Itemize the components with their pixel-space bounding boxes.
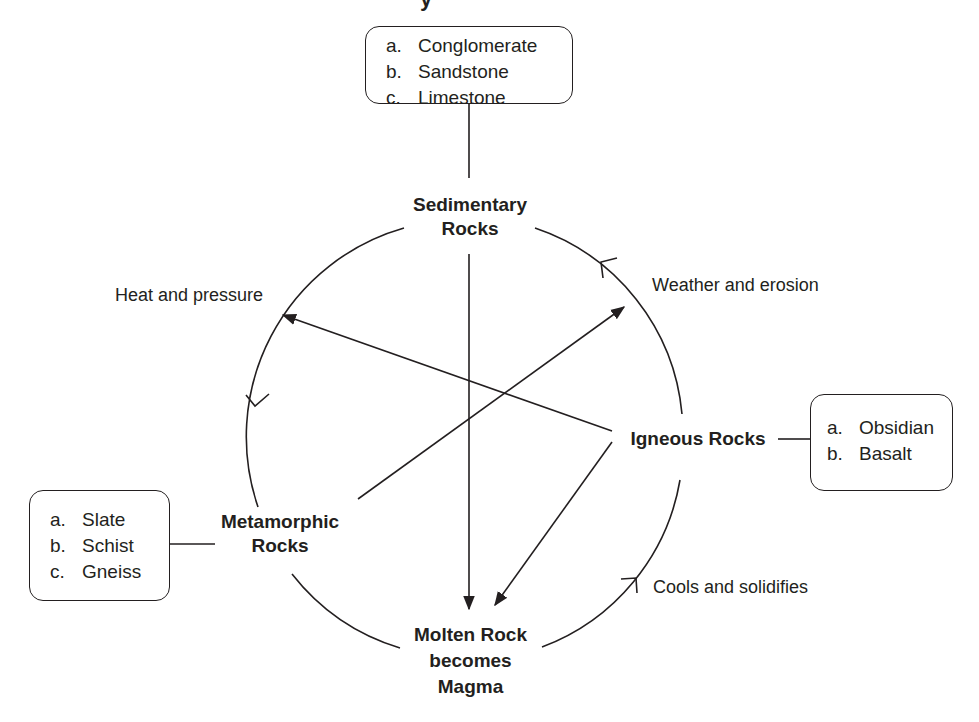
node-sedimentary-rocks: Sedimentary Rocks: [395, 193, 545, 241]
examples-box-metamorphic: a.Slate b.Schist c.Gneiss: [29, 490, 170, 601]
node-igneous-rocks: Igneous Rocks: [618, 427, 778, 451]
example-item: b.Sandstone: [386, 59, 572, 85]
example-item: b.Schist: [50, 533, 169, 559]
arc-igneous-to-sedimentary: [535, 228, 682, 414]
label-heat-and-pressure: Heat and pressure: [115, 284, 263, 306]
example-item: c.Limestone: [386, 85, 572, 111]
arrow-igneous-to-magma: [495, 442, 612, 605]
example-item: b.Basalt: [827, 441, 952, 467]
example-item: c.Gneiss: [50, 559, 169, 585]
example-item: a.Conglomerate: [386, 33, 572, 59]
arrow-igneous-to-metamorphic: [283, 315, 612, 431]
label-weather-and-erosion: Weather and erosion: [652, 274, 819, 296]
arc-sedimentary-to-metamorphic: [246, 228, 404, 507]
example-item: a.Obsidian: [827, 415, 952, 441]
node-molten-rock-magma: Molten Rock becomes Magma: [393, 622, 548, 700]
examples-box-sedimentary: a.Conglomerate b.Sandstone c.Limestone: [365, 26, 573, 104]
label-cools-and-solidifies: Cools and solidifies: [653, 576, 808, 598]
example-item: a.Slate: [50, 507, 169, 533]
arrow-metamorphic-to-sedimentary: [358, 307, 624, 499]
arc-magma-to-igneous: [542, 480, 680, 647]
examples-box-igneous: a.Obsidian b.Basalt: [810, 394, 953, 491]
node-metamorphic-rocks: Metamorphic Rocks: [200, 510, 360, 558]
arc-metamorphic-to-magma: [292, 574, 400, 648]
